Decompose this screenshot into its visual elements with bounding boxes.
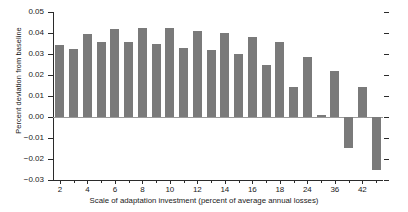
- x-tick-mark: [280, 180, 281, 184]
- y-tick-mark-right: [384, 159, 389, 160]
- x-tick-label: 12: [182, 185, 212, 194]
- x-tick-mark: [294, 180, 295, 183]
- y-tick-mark-right: [384, 138, 389, 139]
- x-tick-label: 10: [155, 185, 185, 194]
- bar: [220, 33, 229, 117]
- y-tick-label: −0.02: [24, 154, 44, 163]
- x-tick-mark: [129, 180, 130, 183]
- bar: [275, 42, 284, 117]
- y-tick-mark-right: [384, 75, 389, 76]
- y-tick-label: 0.00: [28, 112, 44, 121]
- x-tick-label: 24: [292, 185, 322, 194]
- y-tick-mark: [48, 75, 53, 76]
- bar: [97, 42, 106, 117]
- x-tick-mark: [74, 180, 75, 183]
- bar: [124, 42, 133, 117]
- x-tick-mark: [156, 180, 157, 183]
- bar: [83, 34, 92, 117]
- y-tick-mark: [48, 54, 53, 55]
- x-tick-mark: [321, 180, 322, 183]
- x-tick-mark: [115, 180, 116, 184]
- bar-chart: Percent deviation from baseline 0.050.04…: [0, 0, 408, 212]
- bar: [317, 115, 326, 117]
- y-tick-mark: [48, 12, 53, 13]
- y-tick-mark: [48, 138, 53, 139]
- x-tick-mark: [184, 180, 185, 183]
- bar: [152, 44, 161, 117]
- y-tick-mark: [48, 96, 53, 97]
- y-axis-title: Percent deviation from baseline: [14, 1, 23, 161]
- bar: [179, 48, 188, 117]
- bar: [262, 65, 271, 117]
- x-tick-label: 16: [237, 185, 267, 194]
- bar: [165, 28, 174, 117]
- y-tick-mark: [48, 159, 53, 160]
- y-tick-mark: [48, 117, 53, 118]
- bar: [303, 57, 312, 117]
- x-tick-mark: [87, 180, 88, 184]
- y-tick-label: 0.01: [28, 91, 44, 100]
- bar: [372, 117, 381, 170]
- x-tick-mark: [142, 180, 143, 184]
- x-tick-label: 6: [100, 185, 130, 194]
- bar: [138, 28, 147, 117]
- x-tick-label: 4: [72, 185, 102, 194]
- bar: [344, 117, 353, 148]
- x-tick-label: 8: [127, 185, 157, 194]
- y-tick-label: 0.03: [28, 49, 44, 58]
- x-axis-title: Scale of adaptation investment (percent …: [0, 196, 408, 205]
- y-tick-mark-right: [384, 33, 389, 34]
- x-tick-mark: [60, 180, 61, 184]
- y-tick-label: 0.04: [28, 28, 44, 37]
- x-tick-mark: [252, 180, 253, 184]
- y-tick-mark-right: [384, 12, 389, 13]
- bar: [289, 87, 298, 117]
- y-tick-mark-right: [384, 54, 389, 55]
- x-tick-mark: [307, 180, 308, 184]
- bar: [207, 50, 216, 117]
- x-tick-mark: [376, 180, 377, 183]
- x-tick-mark: [101, 180, 102, 183]
- x-tick-mark: [197, 180, 198, 184]
- x-tick-label: 18: [265, 185, 295, 194]
- bar: [358, 87, 367, 117]
- bar: [55, 45, 64, 117]
- x-tick-mark: [362, 180, 363, 184]
- y-tick-mark-right: [384, 96, 389, 97]
- y-tick-label: −0.03: [24, 175, 44, 184]
- x-tick-mark: [225, 180, 226, 184]
- x-tick-label: 14: [210, 185, 240, 194]
- zero-baseline: [53, 117, 383, 118]
- y-axis-line: [53, 12, 54, 180]
- x-tick-mark: [170, 180, 171, 184]
- bar: [110, 29, 119, 117]
- y-tick-mark: [48, 33, 53, 34]
- y-tick-label: 0.05: [28, 7, 44, 16]
- x-tick-mark: [349, 180, 350, 183]
- x-tick-mark: [266, 180, 267, 183]
- x-tick-mark: [335, 180, 336, 184]
- bar: [234, 54, 243, 117]
- y-tick-mark-right: [384, 117, 389, 118]
- x-tick-label: 2: [45, 185, 75, 194]
- y-tick-mark-right: [384, 180, 389, 181]
- x-tick-mark: [239, 180, 240, 183]
- y-tick-label: −0.01: [24, 133, 44, 142]
- x-tick-mark: [211, 180, 212, 183]
- bar: [193, 31, 202, 117]
- x-axis-line: [53, 180, 383, 181]
- bar: [330, 71, 339, 117]
- x-tick-label: 42: [347, 185, 377, 194]
- x-tick-label: 36: [320, 185, 350, 194]
- bar: [69, 49, 78, 117]
- bar: [248, 37, 257, 117]
- y-tick-mark: [48, 180, 53, 181]
- y-tick-label: 0.02: [28, 70, 44, 79]
